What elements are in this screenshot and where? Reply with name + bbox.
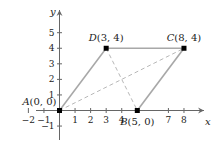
side-ad <box>60 48 107 110</box>
parallelogram-diagram: xy−2−1123478−112345 A(0, 0)B(5, 0)C(8, 4… <box>0 0 223 148</box>
diagonal-ac <box>60 48 184 110</box>
point-b <box>135 108 140 113</box>
point-coords: (8, 4) <box>174 32 201 43</box>
x-tick-label: 2 <box>88 115 94 125</box>
point-label-c: C(8, 4) <box>167 32 202 43</box>
point-coords: (5, 0) <box>128 116 155 127</box>
point-coords: (0, 0) <box>30 96 57 107</box>
side-cb <box>137 48 184 110</box>
x-tick-label: 8 <box>181 115 187 125</box>
x-tick-label: 1 <box>72 115 78 125</box>
point-letter: B <box>119 116 127 127</box>
y-tick-label: −1 <box>41 121 54 131</box>
point-d <box>104 46 109 51</box>
y-tick-label: 5 <box>49 28 55 38</box>
diagonal-db <box>106 48 137 110</box>
point-label-a: A(0, 0) <box>21 96 56 107</box>
x-tick-label: 3 <box>103 115 109 125</box>
y-tick-label: 2 <box>49 74 55 84</box>
point-coords: (3, 4) <box>97 32 124 43</box>
x-axis-label: x <box>205 116 211 127</box>
point-letter: D <box>88 32 97 43</box>
point-a <box>57 108 62 113</box>
x-tick-label: −2 <box>22 115 35 125</box>
x-tick-label: 7 <box>166 115 172 125</box>
point-label-b: B(5, 0) <box>119 116 154 127</box>
point-label-d: D(3, 4) <box>88 32 124 43</box>
y-axis-label: y <box>49 6 56 17</box>
point-c <box>181 46 186 51</box>
y-tick-label: 3 <box>49 59 55 69</box>
point-letter: A <box>21 96 29 107</box>
y-tick-label: 4 <box>49 43 55 53</box>
